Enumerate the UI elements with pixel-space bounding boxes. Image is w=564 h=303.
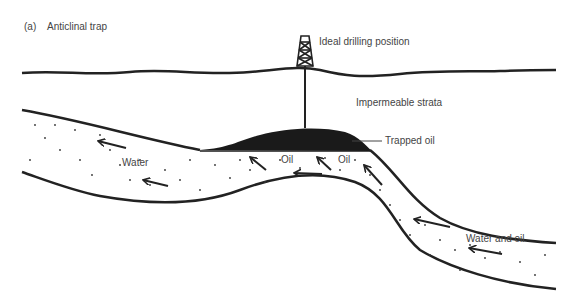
trapped-oil-body bbox=[200, 128, 372, 151]
label-impermeable-strata: Impermeable strata bbox=[356, 97, 442, 108]
label-water: Water bbox=[122, 157, 148, 168]
label-water-and-oil: Water and oil bbox=[466, 233, 525, 244]
figure-title: Anticlinal trap bbox=[47, 21, 107, 32]
label-oil-1: Oil bbox=[281, 154, 293, 165]
label-oil-2: Oil bbox=[338, 154, 350, 165]
label-drilling-position: Ideal drilling position bbox=[319, 36, 410, 47]
panel-label: (a) bbox=[24, 21, 36, 32]
drilling-rig-icon bbox=[297, 36, 313, 66]
anticlinal-trap-diagram bbox=[0, 0, 564, 303]
label-trapped-oil: Trapped oil bbox=[385, 135, 435, 146]
ground-surface-line bbox=[22, 68, 556, 76]
